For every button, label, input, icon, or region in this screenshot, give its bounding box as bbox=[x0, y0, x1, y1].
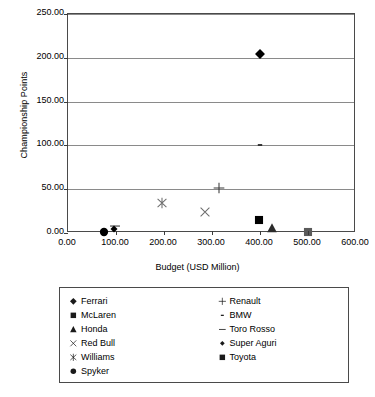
y-tick-label: 200.00 bbox=[20, 52, 64, 61]
gridline-horizontal bbox=[68, 14, 354, 15]
legend-item[interactable]: McLaren bbox=[67, 308, 206, 322]
square-gray-icon bbox=[216, 351, 229, 364]
data-point-bmw bbox=[254, 138, 267, 151]
legend-label: Spyker bbox=[80, 367, 109, 376]
scatter-chart: Championship Points 0.0050.00100.00150.0… bbox=[0, 0, 375, 397]
gridline-horizontal bbox=[68, 58, 354, 59]
legend-label: Toro Rosso bbox=[229, 325, 276, 334]
legend-item[interactable]: Ferrari bbox=[67, 294, 206, 308]
x-tick-mark bbox=[116, 231, 117, 235]
dash-short-icon bbox=[216, 309, 229, 322]
legend-item[interactable]: Spyker bbox=[67, 364, 206, 378]
legend-item[interactable]: Honda bbox=[67, 322, 206, 336]
data-point-super-aguri bbox=[107, 223, 120, 236]
y-axis-tick-labels: 0.0050.00100.00150.00200.00250.00 bbox=[18, 0, 64, 232]
y-tick-mark bbox=[64, 14, 68, 15]
legend-label: Honda bbox=[80, 325, 108, 334]
legend-label: Toyota bbox=[229, 353, 257, 362]
plot-area bbox=[67, 13, 355, 232]
diamond-small-icon bbox=[216, 337, 229, 350]
y-tick-mark bbox=[64, 58, 68, 59]
dash-long-icon bbox=[216, 323, 229, 336]
legend-column-right: RenaultBMWToro RossoSuper AguriToyota bbox=[206, 294, 355, 380]
circle-icon bbox=[67, 365, 80, 378]
data-point-williams bbox=[156, 197, 169, 210]
legend-label: BMW bbox=[229, 311, 252, 320]
legend-item[interactable]: Williams bbox=[67, 350, 206, 364]
cross-x-icon bbox=[67, 337, 80, 350]
data-point-mclaren bbox=[253, 213, 266, 226]
y-tick-mark bbox=[64, 102, 68, 103]
y-tick-mark bbox=[64, 189, 68, 190]
legend-label: Renault bbox=[229, 297, 261, 306]
x-tick-mark bbox=[164, 231, 165, 235]
triangle-icon bbox=[67, 323, 80, 336]
data-point-honda bbox=[266, 221, 279, 234]
y-tick-label: 100.00 bbox=[20, 139, 64, 148]
x-axis-title: Budget (USD Million) bbox=[0, 262, 375, 272]
gridline-horizontal bbox=[68, 145, 354, 146]
y-tick-mark bbox=[64, 233, 68, 234]
legend-column-left: FerrariMcLarenHondaRed BullWilliamsSpyke… bbox=[67, 294, 206, 380]
square-icon bbox=[67, 309, 80, 322]
x-tick-mark bbox=[212, 231, 213, 235]
y-tick-label: 250.00 bbox=[20, 8, 64, 17]
y-tick-label: 150.00 bbox=[20, 96, 64, 105]
legend-item[interactable]: Red Bull bbox=[67, 336, 206, 350]
star-icon bbox=[67, 351, 80, 364]
legend-item[interactable]: Renault bbox=[216, 294, 355, 308]
legend-label: McLaren bbox=[80, 311, 116, 320]
x-tick-mark bbox=[260, 231, 261, 235]
legend-label: Super Aguri bbox=[229, 339, 277, 348]
gridline-horizontal bbox=[68, 102, 354, 103]
diamond-icon bbox=[67, 295, 80, 308]
legend-item[interactable]: Toyota bbox=[216, 350, 355, 364]
legend-item[interactable]: Toro Rosso bbox=[216, 322, 355, 336]
gridline-horizontal bbox=[68, 189, 354, 190]
legend-item[interactable]: BMW bbox=[216, 308, 355, 322]
x-tick-label: 600.00 bbox=[325, 238, 375, 247]
y-tick-mark bbox=[64, 145, 68, 146]
data-point-renault bbox=[213, 182, 226, 195]
legend-label: Ferrari bbox=[80, 297, 108, 306]
legend-label: Red Bull bbox=[80, 339, 115, 348]
legend-label: Williams bbox=[80, 353, 115, 362]
legend: FerrariMcLarenHondaRed BullWilliamsSpyke… bbox=[59, 287, 349, 383]
y-tick-label: 50.00 bbox=[20, 183, 64, 192]
x-tick-mark bbox=[308, 231, 309, 235]
data-point-ferrari bbox=[254, 48, 267, 61]
plus-icon bbox=[216, 295, 229, 308]
data-point-red-bull bbox=[198, 206, 211, 219]
legend-item[interactable]: Super Aguri bbox=[216, 336, 355, 350]
x-axis-tick-labels: 0.00100.00200.00300.00400.00500.00600.00 bbox=[0, 238, 375, 252]
y-tick-label: 0.00 bbox=[20, 227, 64, 236]
